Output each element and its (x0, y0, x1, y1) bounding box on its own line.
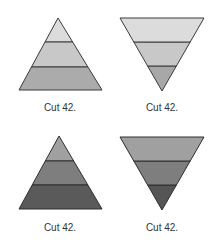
caption-bottom-left: Cut 42. (30, 222, 90, 234)
band-1 (45, 18, 73, 42)
caption-top-left: Cut 42. (30, 102, 90, 114)
band-1 (148, 66, 177, 91)
pyramid-figure-2 (19, 136, 102, 209)
band-2 (31, 42, 87, 67)
caption-top-right: Cut 42. (132, 102, 192, 114)
band-1 (45, 136, 73, 161)
band-2 (134, 42, 190, 66)
band-2 (32, 161, 88, 185)
pyramid-figure-0 (19, 18, 102, 90)
band-3 (120, 18, 204, 42)
inverted-pyramid-figure-1 (120, 18, 204, 91)
band-1 (148, 185, 177, 210)
inverted-pyramid-figure-3 (120, 137, 204, 210)
pyramid-diagram-canvas (0, 0, 220, 246)
band-3 (19, 185, 102, 209)
band-2 (134, 161, 190, 185)
caption-bottom-right: Cut 42. (132, 222, 192, 234)
band-3 (120, 137, 204, 161)
band-3 (19, 67, 102, 90)
